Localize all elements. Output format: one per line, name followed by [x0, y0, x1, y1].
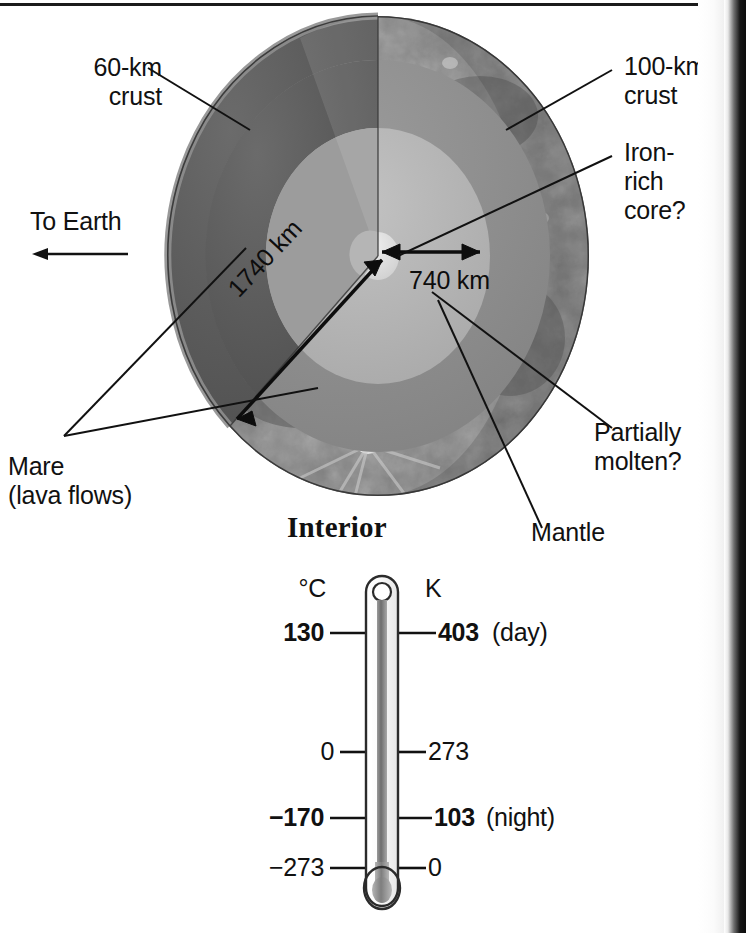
figure-canvas: 60-km crust 100-km crust Iron- rich core…	[0, 0, 746, 933]
reading-note-night: (night)	[486, 803, 555, 832]
label-partially-molten: Partially molten?	[594, 418, 682, 476]
reading-kelvin-freezing: 273	[428, 737, 469, 766]
page-gutter-shadow	[698, 0, 724, 933]
to-earth-arrow	[30, 244, 130, 264]
label-to-earth: To Earth	[30, 207, 122, 236]
page-scan-edge	[724, 0, 746, 933]
reading-celsius-day: 130	[224, 618, 324, 647]
reading-kelvin-absolute-zero: 0	[428, 853, 442, 882]
reading-kelvin-night: 103	[434, 803, 475, 832]
reading-note-day: (day)	[492, 618, 547, 647]
reading-celsius-absolute-zero: −273	[214, 853, 324, 882]
page-top-rule	[0, 3, 746, 6]
reading-celsius-night: −170	[214, 803, 324, 832]
scale-header-celsius: °C	[266, 574, 326, 603]
scale-header-kelvin: K	[425, 574, 441, 603]
figure-title-interior: Interior	[287, 511, 387, 544]
label-mare: Mare (lava flows)	[8, 452, 132, 510]
thermometer-tube	[364, 576, 400, 909]
reading-celsius-freezing: 0	[224, 737, 334, 766]
temperature-thermometer: °C K	[230, 570, 550, 920]
dimension-label-core: 740 km	[409, 266, 490, 295]
label-mantle: Mantle	[531, 518, 605, 547]
moon-interior-illustration	[150, 8, 610, 508]
reading-kelvin-day: 403	[438, 618, 479, 647]
label-60km-crust: 60-km crust	[62, 53, 162, 111]
